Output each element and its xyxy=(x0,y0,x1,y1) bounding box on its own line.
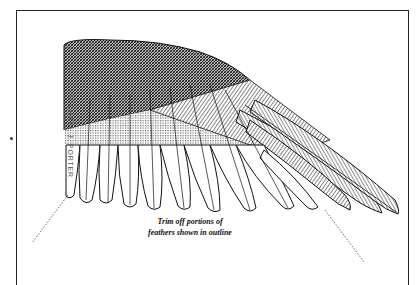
illustration-caption: Trim off portions of feathers shown in o… xyxy=(122,216,258,238)
caption-line-2: feathers shown in outline xyxy=(122,227,258,238)
caption-line-1: Trim off portions of xyxy=(122,216,258,227)
artist-signature: MICHAEL J. PORTER xyxy=(60,95,74,205)
